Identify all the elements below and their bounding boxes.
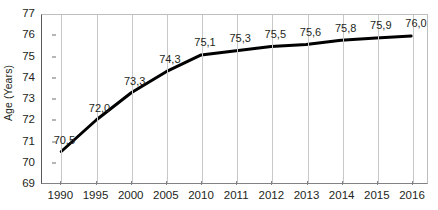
y-axis-tick-labels: 697071727374757677 bbox=[14, 0, 38, 200]
x-tick-label: 2013 bbox=[294, 189, 320, 201]
x-tick-mark bbox=[96, 181, 97, 185]
gridline bbox=[413, 15, 414, 183]
y-tick-label: 69 bbox=[13, 178, 35, 190]
x-tick-mark bbox=[377, 181, 378, 185]
y-tick-label: 71 bbox=[13, 136, 35, 148]
y-tick-label: 73 bbox=[13, 93, 35, 105]
plot-area: 70,572,073,374,375,175,375,575,675,875,9… bbox=[41, 14, 428, 184]
y-tick-label: 74 bbox=[13, 72, 35, 84]
gridline bbox=[202, 15, 203, 183]
x-tick-label: 2011 bbox=[224, 189, 249, 201]
gridline bbox=[343, 15, 344, 183]
x-tick-label: 2000 bbox=[118, 189, 144, 201]
gridline bbox=[97, 15, 98, 183]
series-polyline bbox=[61, 36, 411, 152]
series-line bbox=[42, 15, 427, 183]
gridline bbox=[272, 15, 273, 183]
x-tick-label: 2014 bbox=[329, 189, 355, 201]
x-tick-mark bbox=[131, 181, 132, 185]
x-tick-label: 2015 bbox=[364, 189, 390, 201]
y-tick-label: 77 bbox=[13, 8, 35, 20]
x-axis-tick-labels: 1990199520002005201020112012201320142015… bbox=[41, 186, 428, 208]
gridline bbox=[61, 15, 62, 183]
x-tick-label: 1990 bbox=[48, 189, 74, 201]
x-tick-label: 2012 bbox=[259, 189, 285, 201]
x-tick-label: 1995 bbox=[83, 189, 109, 201]
y-tick-label: 76 bbox=[13, 30, 35, 42]
x-tick-mark bbox=[271, 181, 272, 185]
gridline bbox=[167, 15, 168, 183]
x-tick-mark bbox=[307, 181, 308, 185]
y-tick-label: 72 bbox=[13, 115, 35, 127]
x-tick-label: 2005 bbox=[153, 189, 179, 201]
y-tick-label: 70 bbox=[13, 157, 35, 169]
x-tick-mark bbox=[236, 181, 237, 185]
x-tick-mark bbox=[342, 181, 343, 185]
x-tick-mark bbox=[201, 181, 202, 185]
x-tick-label: 2010 bbox=[188, 189, 214, 201]
x-tick-mark bbox=[60, 181, 61, 185]
gridline bbox=[132, 15, 133, 183]
gridline bbox=[378, 15, 379, 183]
line-chart: Age (Years) 697071727374757677 70,572,07… bbox=[0, 0, 438, 210]
gridline bbox=[308, 15, 309, 183]
gridline bbox=[237, 15, 238, 183]
x-tick-mark bbox=[166, 181, 167, 185]
x-tick-label: 2016 bbox=[399, 189, 425, 201]
x-tick-mark bbox=[412, 181, 413, 185]
y-tick-label: 75 bbox=[13, 51, 35, 63]
